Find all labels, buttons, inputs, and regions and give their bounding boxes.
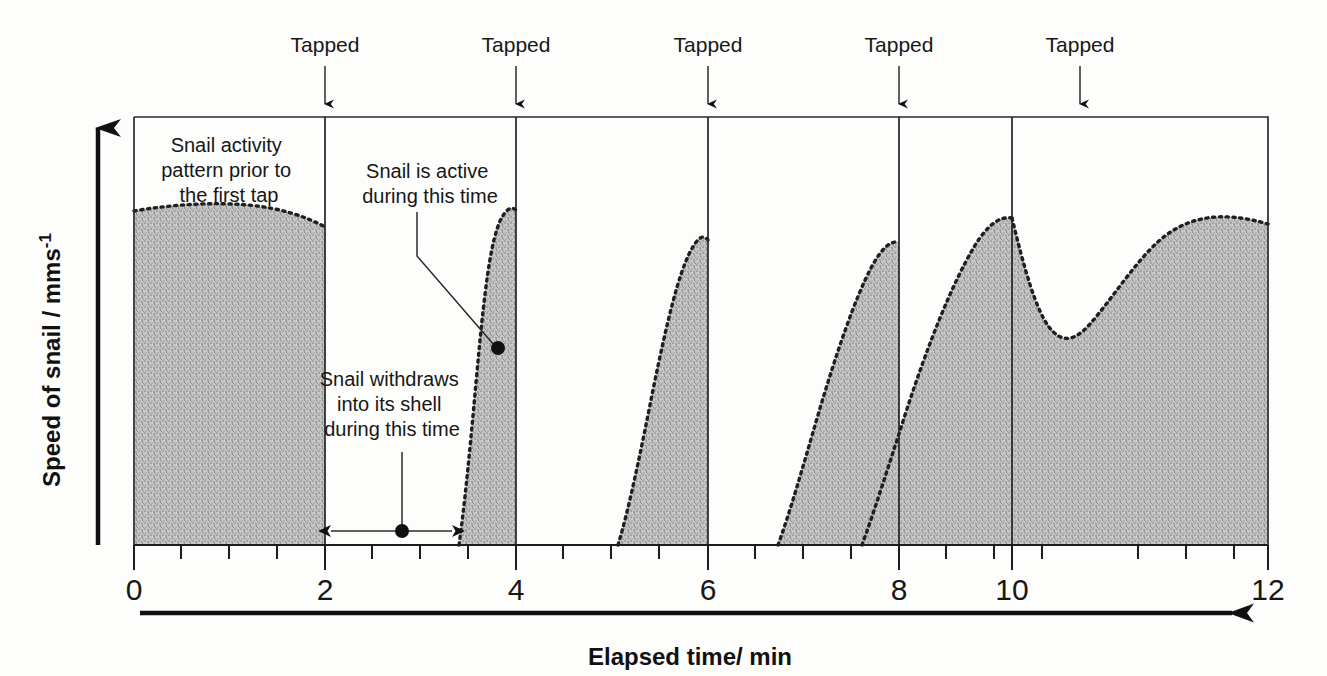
area-recovery-after-tap-1 — [459, 208, 516, 545]
annot-active-line-1: Snail is active — [366, 160, 488, 182]
tapped-markers: Tapped Tapped Tapped Tapped Tapped — [291, 33, 1115, 104]
tapped-label-2: Tapped — [482, 33, 551, 56]
area-response-after-tap-5 — [1012, 217, 1268, 545]
tapped-label-1: Tapped — [291, 33, 360, 56]
x-axis: 0 2 4 6 8 10 12 — [126, 545, 1285, 606]
x-axis-title: Elapsed time/ min — [588, 643, 792, 670]
x-tick-label-6: 6 — [700, 573, 717, 606]
annot-withdraw-line-2: into its shell — [337, 393, 442, 415]
annotation-pre-tap: Snail activity pattern prior to the firs… — [161, 134, 297, 206]
tapped-marker-1: Tapped — [291, 33, 360, 104]
tapped-label-3: Tapped — [674, 33, 743, 56]
svg-text:Snail is active during: Snail is active during this time — [362, 160, 498, 207]
annot-active-leader-dot — [491, 341, 505, 355]
x-tick-label-12: 12 — [1251, 573, 1284, 606]
annot-active-line-2: during this time — [362, 185, 498, 207]
annot-withdraw-line-3: during this time — [324, 418, 460, 440]
x-tick-label-4: 4 — [508, 573, 525, 606]
tapped-marker-4: Tapped — [865, 33, 934, 104]
svg-text:Snail withdraws into i: Snail withdraws into its shell during th… — [320, 368, 465, 440]
tapped-marker-5: Tapped — [1046, 33, 1115, 104]
y-axis-title: Speed of snail / mms-1 — [36, 233, 65, 487]
annot-withdraw-line-1: Snail withdraws — [320, 368, 459, 390]
x-axis-tick-labels: 0 2 4 6 8 10 12 — [126, 573, 1285, 606]
annot-pre-tap-line-1: Snail activity — [171, 134, 282, 156]
x-tick-label-10: 10 — [995, 573, 1028, 606]
x-tick-label-0: 0 — [126, 573, 143, 606]
area-baseline-before-first-tap — [134, 204, 325, 545]
x-tick-label-2: 2 — [317, 573, 334, 606]
snail-activity-chart: 0 2 4 6 8 10 12 Elapsed time/ min Speed … — [0, 0, 1327, 676]
figure-root: 0 2 4 6 8 10 12 Elapsed time/ min Speed … — [0, 0, 1327, 676]
annot-withdraw-midpoint-dot — [395, 524, 409, 538]
svg-text:Snail activity pattern: Snail activity pattern prior to the firs… — [161, 134, 297, 206]
annot-pre-tap-line-2: pattern prior to — [161, 159, 291, 181]
activity-areas — [134, 204, 1268, 545]
y-axis-title-main: Speed of snail / mms — [38, 248, 65, 487]
x-tick-label-8: 8 — [891, 573, 908, 606]
annotation-withdraw: Snail withdraws into its shell during th… — [320, 368, 465, 538]
tapped-marker-2: Tapped — [482, 33, 551, 104]
tapped-label-4: Tapped — [865, 33, 934, 56]
y-axis-title-superscript: -1 — [36, 233, 55, 248]
tapped-marker-3: Tapped — [674, 33, 743, 104]
tapped-label-5: Tapped — [1046, 33, 1115, 56]
x-axis-major-ticks — [134, 545, 1268, 570]
annot-pre-tap-line-3: the first tap — [180, 184, 279, 206]
